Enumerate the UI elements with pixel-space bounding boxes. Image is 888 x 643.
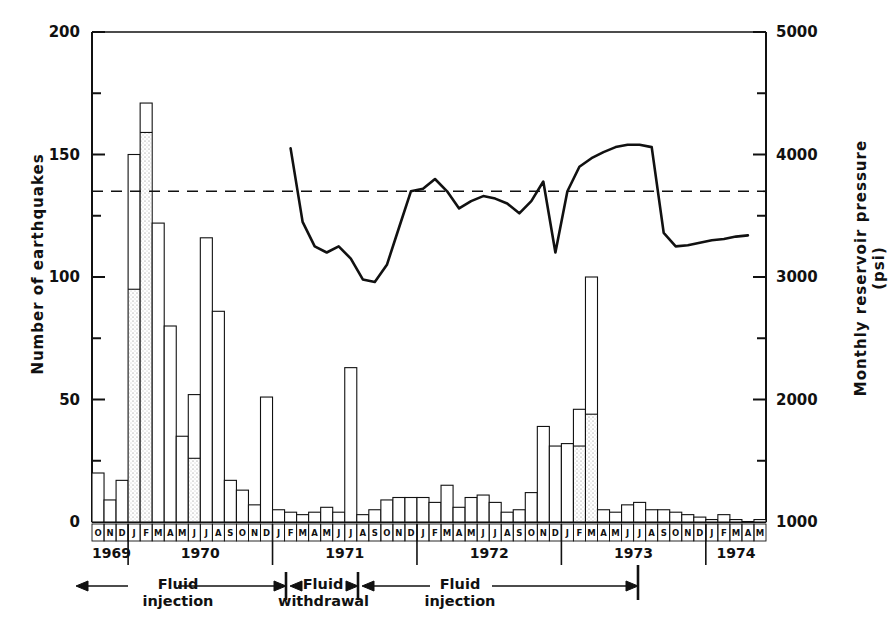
month-label: N [393, 528, 405, 538]
bar [694, 517, 706, 522]
bar [261, 397, 273, 522]
month-label: J [417, 528, 429, 538]
month-label: M [610, 528, 622, 538]
bar [489, 502, 501, 522]
month-label: D [694, 528, 706, 538]
bar [116, 480, 128, 522]
bar [200, 238, 212, 522]
bar [561, 444, 573, 522]
bar [429, 502, 441, 522]
bar [549, 446, 561, 522]
month-label: S [513, 528, 525, 538]
year-label: 1973 [561, 545, 705, 561]
month-label: J [706, 528, 718, 538]
annotation-line1: Fluid [440, 576, 481, 592]
year-label: 1970 [128, 545, 272, 561]
right-tick-label: 5000 [776, 23, 846, 41]
month-label: A [309, 528, 321, 538]
month-label: D [549, 528, 561, 538]
bar-shaded-portion [189, 458, 199, 521]
month-label: J [345, 528, 357, 538]
bar [658, 510, 670, 522]
month-label: M [321, 528, 333, 538]
month-label: J [489, 528, 501, 538]
bar [369, 510, 381, 522]
annotation-line2: injection [143, 593, 214, 609]
bar [309, 512, 321, 522]
left-axis-ticks [92, 32, 105, 522]
month-label: J [561, 528, 573, 538]
bar [477, 495, 489, 522]
bar [285, 512, 297, 522]
month-label: F [718, 528, 730, 538]
month-label: N [537, 528, 549, 538]
month-label: A [357, 528, 369, 538]
month-label: J [333, 528, 345, 538]
bar [610, 512, 622, 522]
bar [321, 507, 333, 522]
year-label: 1974 [706, 545, 766, 561]
left-axis-title: Number of earthquakes [29, 134, 47, 394]
bar-shaded-portion [574, 446, 584, 521]
annotation-line1: Fluid [158, 576, 199, 592]
year-label: 1971 [273, 545, 417, 561]
month-label: F [573, 528, 585, 538]
month-label: F [429, 528, 441, 538]
bar [417, 498, 429, 523]
bar [92, 473, 104, 522]
bar [345, 368, 357, 522]
left-tick-label: 200 [20, 23, 80, 41]
bar [248, 505, 260, 522]
month-label: O [236, 528, 248, 538]
bar [634, 502, 646, 522]
month-label: S [658, 528, 670, 538]
bar [152, 223, 164, 522]
month-label: A [164, 528, 176, 538]
bar [441, 485, 453, 522]
month-label: A [501, 528, 513, 538]
annotation-fluid-withdrawal: Fluid withdrawal [278, 576, 368, 609]
month-label: A [646, 528, 658, 538]
bar [224, 480, 236, 522]
bar [357, 515, 369, 522]
month-label: D [261, 528, 273, 538]
bar [405, 498, 417, 523]
bar [730, 520, 742, 522]
month-label: A [598, 528, 610, 538]
right-tick-label: 4000 [776, 146, 846, 164]
month-label: F [140, 528, 152, 538]
bar [537, 426, 549, 522]
bar [706, 520, 718, 522]
bar [754, 520, 766, 522]
right-tick-label: 1000 [776, 513, 846, 531]
annotation-line2: withdrawal [278, 593, 369, 609]
bar [525, 493, 537, 522]
bar [670, 512, 682, 522]
month-label: F [285, 528, 297, 538]
bar [176, 436, 188, 522]
month-label: O [92, 528, 104, 538]
left-tick-label: 0 [20, 513, 80, 531]
bar [381, 500, 393, 522]
annotation-fluid-injection-2: Fluid injection [390, 576, 530, 609]
month-label: J [634, 528, 646, 538]
month-label: M [297, 528, 309, 538]
bar [501, 512, 513, 522]
earthquake-bars [92, 103, 766, 522]
month-label: O [525, 528, 537, 538]
bar [718, 515, 730, 522]
annotation-line1: Fluid [303, 576, 344, 592]
bar [297, 515, 309, 522]
bar [236, 490, 248, 522]
month-label: N [682, 528, 694, 538]
month-label: M [754, 528, 766, 538]
month-label: O [381, 528, 393, 538]
bar [453, 507, 465, 522]
month-label: D [405, 528, 417, 538]
bar [513, 510, 525, 522]
bar [333, 512, 345, 522]
annotation-fluid-injection-1: Fluid injection [88, 576, 268, 609]
month-label: A [742, 528, 754, 538]
left-tick-label: 150 [20, 146, 80, 164]
